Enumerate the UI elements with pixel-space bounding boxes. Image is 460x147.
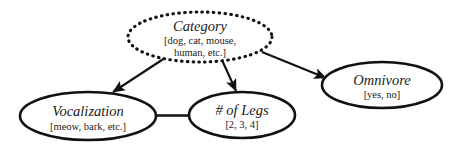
node-vocalization-outline: [20, 92, 156, 140]
node-vocalization[interactable]: Vocalization [meow, bark, etc.]: [20, 92, 156, 140]
diagram-canvas: Category [dog, cat, mouse, human, etc.] …: [0, 0, 460, 147]
node-category-outline: [128, 12, 272, 62]
graph-svg: Category [dog, cat, mouse, human, etc.] …: [0, 0, 460, 147]
edge-category-legs: [222, 60, 236, 91]
node-omnivore-outline: [322, 62, 442, 108]
node-legs-outline: [189, 92, 295, 138]
node-omnivore[interactable]: Omnivore [yes, no]: [322, 62, 442, 108]
node-legs[interactable]: # of Legs [2, 3, 4]: [189, 92, 295, 138]
edge-category-vocalization: [113, 56, 168, 92]
node-category[interactable]: Category [dog, cat, mouse, human, etc.]: [128, 12, 272, 62]
edge-category-omnivore: [262, 52, 326, 78]
